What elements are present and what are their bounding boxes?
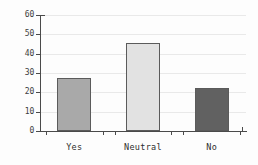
y-tick-label-10: 10 (10, 108, 34, 116)
x-axis-line (40, 131, 247, 132)
x-tick-mark-0-1 (103, 131, 104, 135)
bar-chart: 0102030405060 YesNeutralNo (0, 0, 258, 165)
x-tick-label-no: No (172, 142, 252, 152)
x-tick-mark-0-0 (46, 131, 47, 135)
y-tick-label-40: 40 (10, 50, 34, 58)
bar-neutral (126, 43, 160, 131)
bar-yes (57, 78, 91, 131)
x-tick-mark-2-1 (240, 131, 241, 135)
x-tick-mark-1-0 (115, 131, 116, 135)
bar-no (195, 88, 229, 131)
y-tick-label-0: 0 (10, 127, 34, 135)
y-tick-label-50: 50 (10, 30, 34, 38)
x-tick-mark-1-1 (171, 131, 172, 135)
x-tick-mark-2-0 (183, 131, 184, 135)
plot-area (40, 15, 246, 131)
y-tick-label-30: 30 (10, 69, 34, 77)
y-tick-label-20: 20 (10, 88, 34, 96)
y-tick-label-60: 60 (10, 11, 34, 19)
